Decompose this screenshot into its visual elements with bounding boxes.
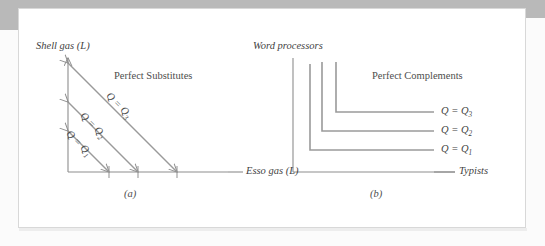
panel-a-x-axis-label: Esso gas (L) [246, 165, 299, 176]
panel-b-isoquant-label-1-text: Q = Q [441, 143, 469, 154]
figure-screenshot: Shell gas (L) Esso gas (L) Perfect Subst… [0, 0, 545, 246]
panel-b-x-axis-label: Typists [459, 165, 488, 176]
panel-a-caption: (a) [124, 188, 136, 199]
panel-b-isoquant-label-1-sub: 1 [469, 149, 473, 157]
panel-b-caption: (b) [370, 188, 382, 199]
panel-b-title: Perfect Complements [372, 70, 463, 81]
panel-a-title: Perfect Substitutes [114, 70, 192, 81]
panel-b-isoquant-label-2: Q = Q2 [441, 124, 472, 138]
panel-b-y-axis-label: Word processors [253, 40, 323, 51]
panel-b-isoquant-label-2-sub: 2 [469, 130, 473, 138]
panel-b-isoquant-label-3-text: Q = Q [441, 105, 469, 116]
panel-b-isoquant-label-3: Q = Q3 [441, 105, 472, 119]
panel-b-isoquant-label-1: Q = Q1 [441, 143, 472, 157]
panel-a-y-axis-label: Shell gas (L) [36, 40, 90, 51]
panel-b-isoquant-label-3-sub: 3 [469, 111, 473, 119]
panel-b-isoquant-label-2-text: Q = Q [441, 124, 469, 135]
